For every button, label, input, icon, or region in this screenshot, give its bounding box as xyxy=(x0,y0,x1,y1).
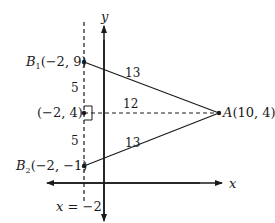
length-B1M: 5 xyxy=(71,81,79,95)
label-B2: B2(−2, −1) xyxy=(15,158,87,175)
length-MB2: 5 xyxy=(71,134,79,148)
length-AM: 12 xyxy=(123,97,138,111)
length-AB1: 13 xyxy=(125,66,140,80)
y-axis-label: y xyxy=(100,9,109,24)
point-A xyxy=(217,111,221,115)
length-AB2: 13 xyxy=(125,136,140,150)
label-M: (−2, 4) xyxy=(37,105,83,120)
x-axis-label: x xyxy=(229,176,237,191)
coordinate-diagram: y x B1(−2, 9) (−2, 4) A(10, 4) B2(−2, −1… xyxy=(0,0,275,223)
line-equation-label: x = −2 xyxy=(56,199,102,214)
label-B1: B1(−2, 9) xyxy=(25,54,87,71)
label-A: A(10, 4) xyxy=(222,105,275,120)
